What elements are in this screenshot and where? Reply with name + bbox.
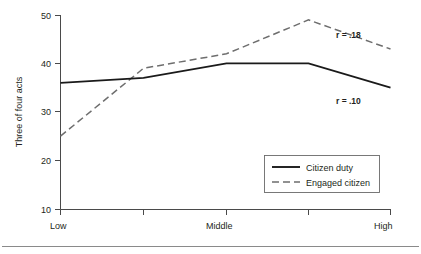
x-tick-label-high: High: [374, 221, 393, 231]
y-tick-label-30: 30: [41, 107, 51, 117]
annotation-duty-r: r = .10: [336, 96, 361, 106]
chart-legend: Citizen duty Engaged citizen: [265, 156, 380, 193]
series-line-citizen-duty: [61, 63, 391, 87]
line-chart: 50 40 30 20 10 Low Middle High Three of …: [0, 0, 421, 254]
y-tick-label-50: 50: [41, 11, 51, 21]
y-tick-label-20: 20: [41, 156, 51, 166]
legend-label-engaged-citizen: Engaged citizen: [306, 178, 370, 188]
legend-label-citizen-duty: Citizen duty: [306, 163, 354, 173]
chart-figure: 50 40 30 20 10 Low Middle High Three of …: [0, 0, 421, 254]
x-tick-label-middle: Middle: [206, 221, 233, 231]
x-tick-label-low: Low: [50, 221, 67, 231]
y-tick-label-40: 40: [41, 59, 51, 69]
y-tick-label-10: 10: [41, 205, 51, 215]
annotation-engaged-r: r = .18: [336, 30, 361, 40]
y-axis-title: Three of four acts: [14, 76, 24, 147]
